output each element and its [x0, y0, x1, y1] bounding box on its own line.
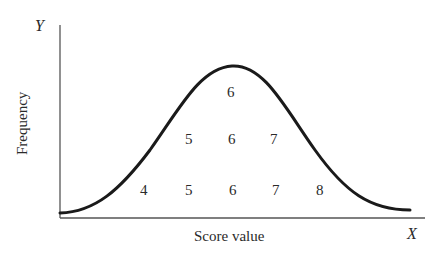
x-axis-label: Score value — [194, 228, 264, 245]
score-label-mid-6: 6 — [228, 132, 236, 147]
score-label-top-6: 6 — [227, 85, 235, 100]
score-label-bottom-6: 6 — [229, 183, 237, 198]
y-axis-label: Frequency — [14, 92, 31, 155]
y-axis-letter: Y — [35, 18, 44, 34]
bell-curve-diagram — [0, 0, 444, 254]
x-axis-letter: X — [407, 226, 417, 242]
score-label-mid-5: 5 — [185, 132, 193, 147]
score-label-bottom-7: 7 — [272, 183, 280, 198]
score-label-mid-7: 7 — [270, 132, 278, 147]
score-label-bottom-4: 4 — [140, 183, 148, 198]
score-label-bottom-5: 5 — [185, 183, 193, 198]
score-label-bottom-8: 8 — [316, 183, 324, 198]
